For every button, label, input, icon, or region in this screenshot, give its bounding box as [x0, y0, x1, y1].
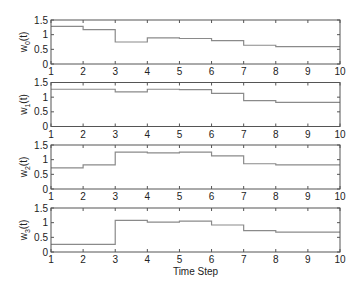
x-tick-label: 1	[48, 254, 54, 265]
x-tick-label: 4	[145, 191, 151, 202]
axes-frame	[51, 208, 340, 252]
x-tick-label: 5	[177, 254, 183, 265]
x-tick-label: 4	[145, 254, 151, 265]
axes-frame	[51, 20, 340, 64]
x-tick-label: 2	[80, 129, 86, 140]
x-tick-label: 8	[273, 254, 279, 265]
x-tick-label: 7	[241, 66, 247, 77]
x-tick-label: 4	[145, 66, 151, 77]
y-tick-label: 0.5	[34, 232, 48, 243]
series-line-w2	[51, 152, 340, 168]
y-tick-label: 0.5	[34, 169, 48, 180]
series-line-w3	[51, 220, 340, 244]
step-chart: 1234567891000.511.5w0(t)1234567891000.51…	[0, 0, 361, 291]
x-tick-label: 9	[305, 129, 311, 140]
y-tick-label: 1.5	[34, 15, 48, 26]
x-tick-label: 5	[177, 129, 183, 140]
x-tick-label: 3	[112, 191, 118, 202]
series-line-w0	[51, 26, 340, 46]
y-tick-label: 0	[42, 121, 48, 132]
panel-w1: 1234567891000.511.5w1(t)	[18, 77, 346, 140]
panel-w2: 1234567891000.511.5w2(t)	[18, 140, 346, 203]
panel-w3: 1234567891000.511.5w3(t)	[18, 203, 346, 266]
y-tick-label: 1	[42, 217, 48, 228]
x-tick-label: 7	[241, 254, 247, 265]
y-tick-label: 1	[42, 92, 48, 103]
y-tick-label: 0	[42, 184, 48, 195]
x-tick-label: 2	[80, 191, 86, 202]
x-tick-label: 6	[209, 129, 215, 140]
y-tick-label: 1.5	[34, 140, 48, 151]
x-tick-label: 1	[48, 129, 54, 140]
x-tick-label: 3	[112, 254, 118, 265]
y-tick-label: 1.5	[34, 203, 48, 214]
y-tick-label: 1	[42, 154, 48, 165]
y-tick-label: 0	[42, 59, 48, 70]
x-tick-label: 8	[273, 129, 279, 140]
x-tick-label: 1	[48, 191, 54, 202]
x-axis-label: Time Step	[173, 266, 219, 277]
y-axis-label: w3(t)	[18, 220, 31, 242]
y-axis-label: w2(t)	[18, 157, 31, 179]
panel-w0: 1234567891000.511.5w0(t)	[18, 15, 346, 78]
x-tick-label: 9	[305, 191, 311, 202]
x-tick-label: 6	[209, 191, 215, 202]
x-tick-label: 10	[334, 129, 346, 140]
x-tick-label: 9	[305, 66, 311, 77]
x-tick-label: 6	[209, 66, 215, 77]
x-tick-label: 3	[112, 66, 118, 77]
y-axis-label: w1(t)	[18, 94, 31, 116]
x-tick-label: 10	[334, 254, 346, 265]
x-tick-label: 7	[241, 191, 247, 202]
x-tick-label: 8	[273, 191, 279, 202]
y-tick-label: 0.5	[34, 44, 48, 55]
y-tick-label: 1.5	[34, 77, 48, 88]
x-tick-label: 2	[80, 254, 86, 265]
x-tick-label: 1	[48, 66, 54, 77]
x-tick-label: 5	[177, 191, 183, 202]
x-tick-label: 2	[80, 66, 86, 77]
x-tick-label: 9	[305, 254, 311, 265]
x-tick-label: 6	[209, 254, 215, 265]
series-line-w1	[51, 89, 340, 102]
y-tick-label: 0	[42, 247, 48, 258]
y-tick-label: 1	[42, 29, 48, 40]
x-tick-label: 4	[145, 129, 151, 140]
x-tick-label: 10	[334, 66, 346, 77]
x-tick-label: 5	[177, 66, 183, 77]
x-tick-label: 8	[273, 66, 279, 77]
x-tick-label: 7	[241, 129, 247, 140]
x-tick-label: 3	[112, 129, 118, 140]
x-tick-label: 10	[334, 191, 346, 202]
y-tick-label: 0.5	[34, 106, 48, 117]
y-axis-label: w0(t)	[18, 32, 31, 54]
